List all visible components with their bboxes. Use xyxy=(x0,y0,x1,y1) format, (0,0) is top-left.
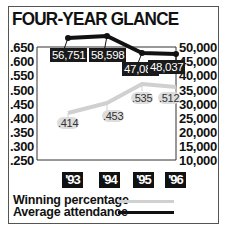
legend-winning-swatch xyxy=(118,200,174,203)
left-axis-tick: .600 xyxy=(0,54,34,69)
left-axis-tick: .550 xyxy=(0,68,34,83)
right-axis-tick: 35,000 xyxy=(179,83,217,98)
right-axis-tick: 10,000 xyxy=(179,153,217,168)
attendance-label-94: 58,598 xyxy=(89,48,126,62)
year-label-93: '93 xyxy=(62,172,83,188)
year-label-96: '96 xyxy=(165,172,186,188)
left-axis-tick: .300 xyxy=(0,139,34,154)
legend-attendance-swatch xyxy=(118,211,174,214)
left-axis-tick: .450 xyxy=(0,97,34,112)
left-axis-tick: .500 xyxy=(0,83,34,98)
right-axis-tick: 20,000 xyxy=(179,125,217,140)
right-axis-tick: 30,000 xyxy=(179,97,217,112)
winpct-label-94: .453 xyxy=(102,110,124,122)
winpct-label-95: .535 xyxy=(131,92,153,104)
right-axis-tick: 25,000 xyxy=(179,111,217,126)
winpct-label-96: .512 xyxy=(158,92,180,104)
year-label-94: '94 xyxy=(99,172,120,188)
right-axis-tick: 50,000 xyxy=(179,40,217,55)
attendance-label-93: 56,751 xyxy=(50,48,87,62)
year-label-95: '95 xyxy=(133,172,154,188)
left-axis-tick: .350 xyxy=(0,125,34,140)
left-axis-tick: .400 xyxy=(0,111,34,126)
attendance-label-96: 48,037 xyxy=(148,60,185,74)
legend-attendance-label: Average attendance xyxy=(13,205,128,219)
left-axis-tick: .250 xyxy=(0,153,34,168)
right-axis-tick: 15,000 xyxy=(179,139,217,154)
winpct-label-93: .414 xyxy=(57,117,79,129)
left-axis-tick: .650 xyxy=(0,40,34,55)
